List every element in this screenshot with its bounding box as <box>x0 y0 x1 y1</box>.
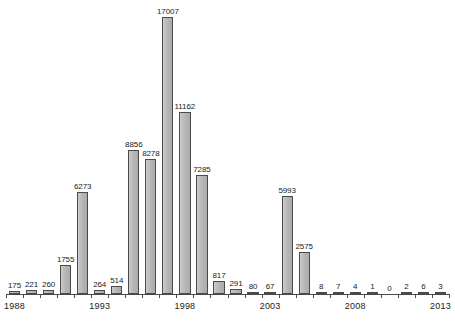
axis-tick <box>40 294 41 298</box>
bar-rect[interactable] <box>179 112 190 294</box>
axis-tick <box>159 294 160 298</box>
bar-rect[interactable] <box>213 281 224 294</box>
bar-value-label: 17007 <box>157 7 179 16</box>
bar-value-label: 817 <box>212 271 225 280</box>
axis-tick <box>415 294 416 298</box>
bar-1994[interactable]: 514 <box>111 6 122 294</box>
bar-2012[interactable]: 6 <box>418 6 429 294</box>
bar-value-label: 11162 <box>175 102 196 111</box>
bar-1998[interactable]: 11162 <box>179 6 190 294</box>
bar-value-label: 7285 <box>193 165 210 174</box>
bar-2010[interactable]: 0 <box>384 6 395 294</box>
bar-value-label: 8278 <box>142 149 159 158</box>
axis-tick <box>210 294 211 298</box>
plot-area: 1752212601755627326451488568278170071116… <box>6 6 449 294</box>
bar-2006[interactable]: 8 <box>316 6 327 294</box>
bar-value-label: 4 <box>353 282 357 291</box>
bar-chart: 1752212601755627326451488568278170071116… <box>0 0 455 327</box>
bar-value-label: 80 <box>249 282 258 291</box>
bar-value-label: 264 <box>93 280 106 289</box>
bar-2013[interactable]: 3 <box>435 6 446 294</box>
axis-tick <box>296 294 297 298</box>
axis-tick <box>108 294 109 298</box>
bar-2001[interactable]: 291 <box>230 6 241 294</box>
bar-rect[interactable] <box>196 175 207 294</box>
bar-rect[interactable] <box>60 265 71 294</box>
bar-rect[interactable] <box>299 252 310 294</box>
axis-label-2003: 2003 <box>260 301 281 312</box>
axis-label-1988: 1988 <box>4 301 25 312</box>
axis-tick <box>193 294 194 298</box>
bar-value-label: 260 <box>42 280 55 289</box>
bar-1999[interactable]: 7285 <box>196 6 207 294</box>
axis-label-2008: 2008 <box>345 301 366 312</box>
bar-1992[interactable]: 6273 <box>77 6 88 294</box>
bar-value-label: 1755 <box>57 255 74 264</box>
axis-tick <box>142 294 143 298</box>
bar-rect[interactable] <box>77 192 88 294</box>
bar-rect[interactable] <box>282 196 293 294</box>
axis-tick <box>381 294 382 298</box>
bar-value-label: 221 <box>25 280 38 289</box>
axis-tick <box>23 294 24 298</box>
bar-value-label: 2 <box>404 282 408 291</box>
axis-tick <box>279 294 280 298</box>
axis-tick <box>91 294 92 298</box>
bar-value-label: 2575 <box>295 242 312 251</box>
axis-tick <box>398 294 399 298</box>
bar-2008[interactable]: 4 <box>350 6 361 294</box>
bar-value-label: 5993 <box>278 186 295 195</box>
axis-tick <box>364 294 365 298</box>
axis-label-1998: 1998 <box>174 301 195 312</box>
axis-label-1993: 1993 <box>89 301 110 312</box>
bar-value-label: 514 <box>110 276 123 285</box>
bar-value-label: 3 <box>438 282 442 291</box>
axis-tick <box>262 294 263 298</box>
axis-tick <box>125 294 126 298</box>
bar-1988[interactable]: 175 <box>9 6 20 294</box>
bar-value-label: 6 <box>421 282 425 291</box>
bar-value-label: 8 <box>319 282 323 291</box>
bar-1991[interactable]: 1755 <box>60 6 71 294</box>
bar-value-label: 6273 <box>74 182 91 191</box>
bar-value-label: 1 <box>370 282 374 291</box>
bar-2004[interactable]: 5993 <box>282 6 293 294</box>
bar-value-label: 67 <box>266 282 275 291</box>
axis-tick <box>57 294 58 298</box>
axis-tick <box>449 294 450 298</box>
bar-value-label: 0 <box>387 284 391 293</box>
bar-rect[interactable] <box>145 159 156 294</box>
bar-1995[interactable]: 8856 <box>128 6 139 294</box>
bar-1990[interactable]: 260 <box>43 6 54 294</box>
bar-value-label: 291 <box>229 279 242 288</box>
axis-tick <box>74 294 75 298</box>
axis-tick <box>228 294 229 298</box>
axis-tick <box>176 294 177 298</box>
bar-rect[interactable] <box>162 17 173 294</box>
bar-value-label: 175 <box>8 281 21 290</box>
bar-value-label: 8856 <box>125 140 142 149</box>
bar-1996[interactable]: 8278 <box>145 6 156 294</box>
bar-2002[interactable]: 80 <box>247 6 258 294</box>
bar-1997[interactable]: 17007 <box>162 6 173 294</box>
bar-value-label: 7 <box>336 282 340 291</box>
axis-tick <box>330 294 331 298</box>
bar-2011[interactable]: 2 <box>401 6 412 294</box>
bar-2007[interactable]: 7 <box>333 6 344 294</box>
axis-tick <box>6 294 7 298</box>
bar-2005[interactable]: 2575 <box>299 6 310 294</box>
axis-tick <box>245 294 246 298</box>
bar-2000[interactable]: 817 <box>213 6 224 294</box>
bar-rect[interactable] <box>111 286 122 294</box>
bar-1993[interactable]: 264 <box>94 6 105 294</box>
bar-rect[interactable] <box>128 150 139 294</box>
bar-1989[interactable]: 221 <box>26 6 37 294</box>
axis-label-2013: 2013 <box>430 301 451 312</box>
axis-tick <box>432 294 433 298</box>
bar-2003[interactable]: 67 <box>264 6 275 294</box>
bar-2009[interactable]: 1 <box>367 6 378 294</box>
axis-tick <box>347 294 348 298</box>
axis-tick <box>313 294 314 298</box>
